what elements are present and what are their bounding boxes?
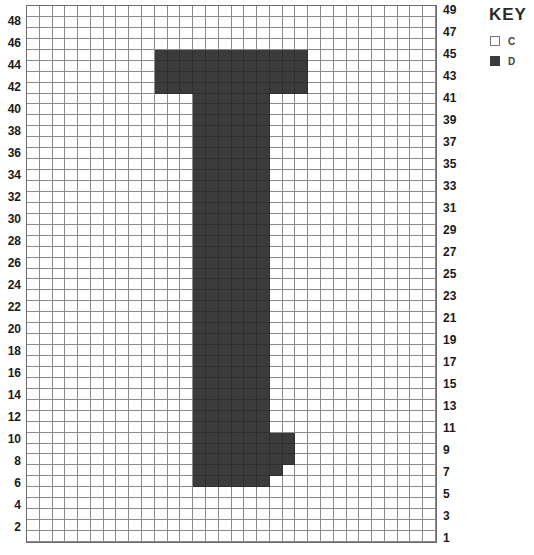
stitch-cell bbox=[129, 148, 142, 159]
stitch-cell bbox=[257, 247, 270, 258]
stitch-cell bbox=[308, 258, 321, 269]
stitch-cell bbox=[104, 476, 117, 487]
stitch-cell bbox=[385, 312, 398, 323]
stitch-cell bbox=[78, 225, 91, 236]
stitch-cell bbox=[116, 498, 129, 509]
stitch-cell bbox=[104, 258, 117, 269]
stitch-cell bbox=[104, 94, 117, 105]
stitch-cell bbox=[53, 400, 66, 411]
stitch-cell bbox=[398, 454, 411, 465]
stitch-cell bbox=[27, 465, 40, 476]
stitch-cell bbox=[372, 137, 385, 148]
stitch-cell bbox=[168, 17, 181, 28]
stitch-cell bbox=[385, 378, 398, 389]
stitch-cell bbox=[398, 214, 411, 225]
stitch-cell bbox=[155, 389, 168, 400]
stitch-cell bbox=[155, 214, 168, 225]
stitch-cell bbox=[219, 39, 232, 50]
stitch-cell bbox=[257, 367, 270, 378]
stitch-cell bbox=[65, 454, 78, 465]
stitch-cell bbox=[193, 181, 206, 192]
stitch-cell bbox=[91, 94, 104, 105]
stitch-cell bbox=[40, 203, 53, 214]
stitch-cell bbox=[232, 323, 245, 334]
stitch-cell bbox=[168, 444, 181, 455]
stitch-cell bbox=[257, 531, 270, 542]
stitch-cell bbox=[295, 290, 308, 301]
stitch-cell bbox=[155, 433, 168, 444]
stitch-cell bbox=[270, 115, 283, 126]
stitch-cell bbox=[334, 520, 347, 531]
stitch-cell bbox=[65, 6, 78, 17]
stitch-cell bbox=[91, 422, 104, 433]
stitch-cell bbox=[398, 520, 411, 531]
stitch-cell bbox=[129, 531, 142, 542]
stitch-cell bbox=[27, 433, 40, 444]
stitch-cell bbox=[398, 236, 411, 247]
stitch-cell bbox=[308, 6, 321, 17]
stitch-cell bbox=[334, 94, 347, 105]
stitch-cell bbox=[295, 509, 308, 520]
stitch-cell bbox=[78, 520, 91, 531]
stitch-cell bbox=[385, 181, 398, 192]
stitch-cell bbox=[206, 28, 219, 39]
stitch-cell bbox=[40, 498, 53, 509]
stitch-cell bbox=[308, 411, 321, 422]
stitch-cell bbox=[129, 170, 142, 181]
stitch-cell bbox=[168, 433, 181, 444]
stitch-cell bbox=[116, 83, 129, 94]
stitch-cell bbox=[295, 301, 308, 312]
stitch-cell bbox=[91, 454, 104, 465]
stitch-cell bbox=[53, 39, 66, 50]
stitch-cell bbox=[91, 6, 104, 17]
stitch-cell bbox=[219, 6, 232, 17]
stitch-cell bbox=[359, 378, 372, 389]
stitch-cell bbox=[321, 170, 334, 181]
stitch-cell bbox=[321, 115, 334, 126]
stitch-cell bbox=[359, 258, 372, 269]
stitch-cell bbox=[321, 345, 334, 356]
stitch-cell bbox=[27, 498, 40, 509]
stitch-cell bbox=[65, 269, 78, 280]
stitch-cell bbox=[359, 126, 372, 137]
stitch-cell bbox=[155, 61, 168, 72]
stitch-cell bbox=[244, 6, 257, 17]
stitch-cell bbox=[359, 323, 372, 334]
stitch-cell bbox=[283, 94, 296, 105]
stitch-cell bbox=[283, 148, 296, 159]
stitch-cell bbox=[410, 301, 423, 312]
stitch-cell bbox=[308, 476, 321, 487]
stitch-cell bbox=[53, 236, 66, 247]
stitch-cell bbox=[334, 192, 347, 203]
stitch-cell bbox=[91, 236, 104, 247]
stitch-cell bbox=[334, 531, 347, 542]
stitch-cell bbox=[359, 433, 372, 444]
stitch-cell bbox=[295, 400, 308, 411]
stitch-cell bbox=[129, 104, 142, 115]
stitch-cell bbox=[53, 312, 66, 323]
stitch-cell bbox=[308, 345, 321, 356]
stitch-cell bbox=[385, 104, 398, 115]
stitch-cell bbox=[232, 181, 245, 192]
stitch-cell bbox=[65, 367, 78, 378]
stitch-cell bbox=[270, 334, 283, 345]
stitch-cell bbox=[334, 236, 347, 247]
stitch-cell bbox=[295, 225, 308, 236]
stitch-cell bbox=[321, 181, 334, 192]
stitch-cell bbox=[385, 411, 398, 422]
stitch-cell bbox=[321, 356, 334, 367]
stitch-cell bbox=[423, 148, 436, 159]
stitch-cell bbox=[168, 290, 181, 301]
stitch-cell bbox=[168, 345, 181, 356]
stitch-cell bbox=[142, 465, 155, 476]
stitch-cell bbox=[65, 465, 78, 476]
stitch-cell bbox=[308, 50, 321, 61]
stitch-cell bbox=[244, 39, 257, 50]
stitch-cell bbox=[155, 411, 168, 422]
stitch-cell bbox=[244, 192, 257, 203]
stitch-cell bbox=[295, 159, 308, 170]
stitch-cell bbox=[385, 389, 398, 400]
stitch-cell bbox=[232, 312, 245, 323]
stitch-cell bbox=[104, 531, 117, 542]
stitch-cell bbox=[168, 454, 181, 465]
